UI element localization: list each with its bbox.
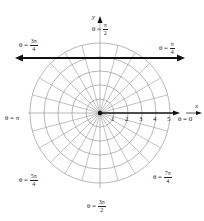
grid-radial-line bbox=[100, 113, 161, 148]
tick-4: 4 bbox=[153, 116, 157, 123]
x-axis-arrow-icon bbox=[196, 111, 202, 115]
tick-2: 2 bbox=[125, 116, 129, 123]
label-theta-pi-over-2: θ = π2 bbox=[92, 22, 108, 37]
grid-radial-line bbox=[51, 64, 101, 114]
grid-radial-line bbox=[32, 113, 100, 131]
grid-radial-line bbox=[100, 95, 168, 113]
label-theta-3pi-over-2: θ = 3π2 bbox=[87, 199, 106, 214]
label-theta-pi-over-4: θ = π4 bbox=[159, 41, 175, 56]
label-theta-3pi-over-4: θ = 3π4 bbox=[19, 38, 38, 53]
grid-radial-line bbox=[100, 45, 118, 113]
tick-5: 5 bbox=[167, 116, 171, 123]
grid-radial-line bbox=[100, 52, 135, 113]
pole bbox=[98, 111, 102, 115]
label-theta-7pi-over-4: θ = 7π4 bbox=[153, 170, 172, 185]
highlight-line-right-arrow-icon bbox=[177, 55, 185, 62]
grid-radial-line bbox=[32, 95, 100, 113]
grid-radial-line bbox=[82, 113, 100, 181]
grid-radial-line bbox=[65, 113, 100, 174]
grid-radial-line bbox=[51, 113, 101, 163]
label-theta-pi: θ = π bbox=[5, 115, 19, 122]
label-theta-5pi-over-4: θ = 5π4 bbox=[19, 173, 38, 188]
tick-3: 3 bbox=[139, 116, 143, 123]
grid-radial-line bbox=[39, 113, 100, 148]
grid-radial-line bbox=[100, 113, 135, 174]
x-axis-label: x bbox=[195, 103, 198, 110]
grid-radial-line bbox=[82, 45, 100, 113]
y-axis-label: y bbox=[92, 14, 95, 21]
tick-1: 1 bbox=[111, 116, 115, 123]
grid-radial-line bbox=[65, 52, 100, 113]
label-theta-0: θ = 0 bbox=[178, 116, 192, 123]
grid-radial-line bbox=[100, 113, 118, 181]
highlight-line-left-arrow-icon bbox=[15, 55, 23, 62]
grid-radial-line bbox=[100, 78, 161, 113]
grid-radial-line bbox=[100, 64, 150, 114]
grid-radial-line bbox=[39, 78, 100, 113]
